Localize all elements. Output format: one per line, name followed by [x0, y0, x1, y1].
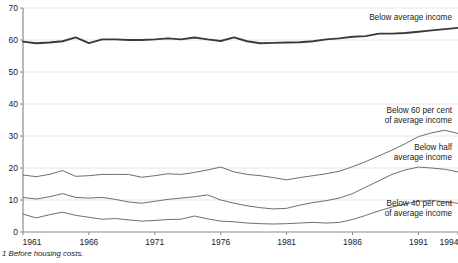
low-income-line-chart: 010203040506070 196119661971197619811986…	[0, 0, 458, 263]
y-tick-label-40: 40	[9, 99, 19, 109]
series-label-below-60-line1: Below 60 per cent	[386, 106, 452, 115]
series-label-below-40-line2: of average income	[385, 209, 453, 218]
series-label-below-60-line2: of average income	[385, 116, 453, 125]
chart-plot-area: 010203040506070 196119661971197619811986…	[0, 0, 458, 263]
y-tick-label-70: 70	[9, 3, 19, 13]
y-tick-label-10: 10	[9, 195, 19, 205]
y-axis-group: 010203040506070	[9, 3, 23, 237]
y-tick-label-0: 0	[13, 227, 18, 237]
x-tick-label-1994: 1994	[440, 237, 458, 247]
series-label-below-average: Below average income	[369, 13, 452, 22]
x-tick-label-1971: 1971	[145, 237, 164, 247]
x-tick-label-1991: 1991	[409, 237, 428, 247]
x-tick-label-1961: 1961	[23, 237, 42, 247]
y-tick-label-20: 20	[9, 163, 19, 173]
x-tick-label-1976: 1976	[211, 237, 230, 247]
x-axis-group: 19611966197119761981198619911994	[23, 232, 458, 247]
chart-footnote: 1 Before housing costs.	[2, 249, 83, 258]
x-tick-label-1981: 1981	[277, 237, 296, 247]
y-tick-label-30: 30	[9, 131, 19, 141]
x-tick-label-1966: 1966	[79, 237, 98, 247]
series-label-below-40-line1: Below 40 per cent	[386, 199, 452, 208]
data-series-group	[23, 28, 458, 224]
series-labels-group: Below average income Below 60 per cent o…	[369, 13, 453, 218]
gridlines-group	[23, 8, 458, 200]
series-label-below-half-line2: average income	[394, 153, 453, 162]
y-tick-label-60: 60	[9, 35, 19, 45]
series-label-below-half-line1: Below half	[414, 143, 453, 152]
data-line-0	[23, 28, 458, 43]
x-tick-label-1986: 1986	[343, 237, 362, 247]
y-tick-label-50: 50	[9, 67, 19, 77]
